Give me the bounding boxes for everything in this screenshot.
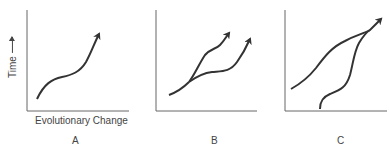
- y-axis-label-text: Time: [7, 56, 18, 78]
- panel-c-axes: [285, 10, 387, 111]
- panel-b-trunk: [169, 82, 189, 95]
- panel-c: [285, 10, 387, 111]
- panel-a-axes: [27, 10, 129, 111]
- panel-a-curve: [37, 34, 99, 99]
- panel-c-label: C: [337, 135, 344, 146]
- x-axis-label: Evolutionary Change: [35, 115, 128, 126]
- panel-c-lineage-left: [291, 19, 381, 89]
- panel-b-branch-upper: [189, 33, 229, 82]
- panel-b: [156, 10, 257, 111]
- y-axis-arrow-icon: [12, 37, 13, 53]
- y-axis-label: Time: [7, 37, 18, 78]
- panel-b-label: B: [211, 135, 218, 146]
- panel-b-axes: [156, 10, 257, 111]
- panel-a: [27, 10, 129, 111]
- diagram-canvas: [0, 0, 389, 151]
- panel-a-label: A: [72, 135, 79, 146]
